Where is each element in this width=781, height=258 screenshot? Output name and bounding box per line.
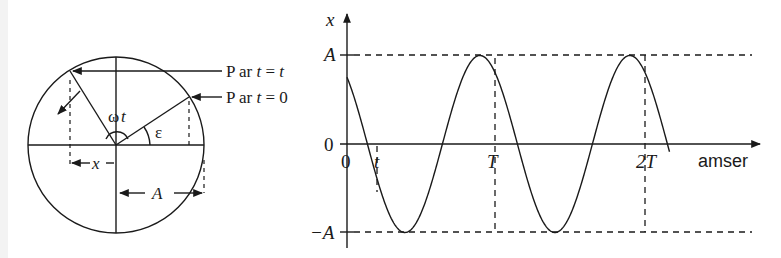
label-p-at-t: P ar t = t — [226, 62, 285, 81]
x-tick-origin: 0 — [341, 151, 351, 172]
x-tick-two-periods: 2T — [636, 151, 658, 172]
tick-label-minus-a: −A — [310, 222, 335, 243]
rotation-arrow-icon — [58, 91, 80, 114]
omega-t-label: t — [121, 107, 127, 126]
label-p-at-0: P ar t = 0 — [226, 88, 288, 107]
x-axis-label: amser — [698, 151, 748, 171]
x-tick-t: t — [374, 151, 380, 172]
shm-diagram: x A ω t ε P ar t = t P ar t = 0 — [0, 0, 781, 258]
angle-arc-epsilon — [144, 127, 150, 145]
tick-label-zero: 0 — [324, 134, 334, 155]
phasor-diagram: x A ω t ε P ar t = t P ar t = 0 — [28, 57, 288, 233]
x-tick-period: T — [487, 151, 499, 172]
omega-label: ω — [108, 107, 119, 126]
svg-text:P ar t = t: P ar t = t — [226, 62, 285, 81]
y-axis-label: x — [325, 9, 335, 30]
epsilon-label: ε — [155, 123, 162, 142]
displacement-graph: x A 0 −A 0 t T 2T amser — [310, 9, 760, 248]
a-dimension-label: A — [151, 184, 163, 203]
tick-label-a: A — [322, 44, 336, 65]
svg-text:P ar t = 0: P ar t = 0 — [226, 88, 288, 107]
x-dimension-label: x — [91, 154, 100, 173]
diagram-canvas: x A ω t ε P ar t = t P ar t = 0 — [0, 0, 781, 258]
